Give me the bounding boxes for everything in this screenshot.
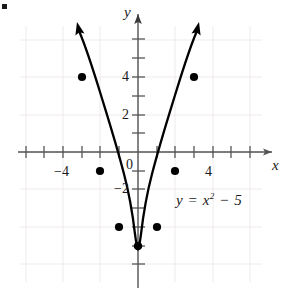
point-marker [153,223,161,231]
y-tick-label-neg2: −2 [114,182,129,196]
equation-equals: = [187,192,198,208]
equation-annotation: y = x2 − 5 [176,192,242,208]
x-axis-label: x [272,158,279,173]
point-marker [96,167,104,175]
point-marker [115,223,123,231]
y-tick-label-2: 2 [122,108,129,122]
y-tick-label-4: 4 [122,70,129,84]
point-marker [134,242,143,251]
y-axis-label: y [124,5,131,20]
x-tick-label-neg4: −4 [54,165,69,179]
point-marker [78,73,86,81]
equation-lhs: y [176,192,183,208]
equation-variable: x [203,192,210,208]
point-marker [190,73,198,81]
coordinate-plane [0,0,286,290]
parabola-figure: y x 0 −4 4 4 2 −2 y = x2 − 5 [0,0,286,290]
origin-label: 0 [126,158,133,172]
equation-minus: − [219,192,230,208]
equation-constant: 5 [234,192,242,208]
x-tick-label-4: 4 [205,165,212,179]
point-marker [171,167,179,175]
equation-exponent: 2 [210,191,215,201]
